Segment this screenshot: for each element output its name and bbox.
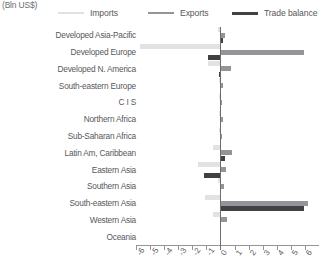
chart-legend: Imports Exports Trade balance [55,6,319,20]
legend-label-exports: Exports [180,8,208,18]
bar-imports [198,162,221,167]
axis-tick-label: 1 [234,248,244,257]
legend-item-exports: Exports [148,6,208,20]
unit-label: (Bln US$) [2,0,37,10]
bar-imports [140,44,220,49]
axis-tick-label: -2 [191,246,202,257]
zero-axis-line [220,27,221,245]
axis-tick-label: 4 [276,248,286,257]
bar-exports [220,201,307,206]
category-label: Developed Europe [70,45,136,59]
bars-area [136,27,319,245]
bar-imports [213,212,221,217]
category-label: South-eastern Asia [69,196,136,210]
bar-exports [220,66,231,71]
legend-swatch-trade-balance [232,12,258,15]
axis-tick-label: -1 [205,246,216,257]
value-axis: -6-5-4-3-2-101234567 [136,245,319,275]
legend-label-trade-balance: Trade balance [264,8,317,18]
category-label: Sub-Saharan Africa [68,129,136,143]
category-label: Oceania [106,230,136,244]
legend-swatch-imports [58,12,84,14]
axis-tick-label: 3 [262,248,272,257]
category-label: Western Asia [90,213,136,227]
legend-item-imports: Imports [58,6,118,20]
category-label: Eastern Asia [92,163,136,177]
category-label: C I S [119,95,136,109]
plot-area: Developed Asia-PacificDeveloped EuropeDe… [0,27,319,245]
bar-imports [205,195,220,200]
category-axis: Developed Asia-PacificDeveloped EuropeDe… [0,27,136,245]
bar-imports [208,61,220,66]
axis-tick-label: 0 [219,248,229,257]
bar-trade-balance [204,173,221,178]
legend-item-trade-balance: Trade balance [232,6,317,20]
axis-tick-label: -6 [135,246,146,257]
axis-tick-label: -3 [177,246,188,257]
category-label: Latin Am, Caribbean [65,146,136,160]
axis-tick-label: -4 [163,246,174,257]
category-label: Developed Asia-Pacific [56,28,136,42]
category-label: Southern Asia [87,179,136,193]
category-label: Developed N. America [57,62,136,76]
bar-exports [220,150,231,155]
bar-trade-balance [208,55,221,60]
bar-exports [220,217,227,222]
trade-bar-chart: (Bln US$) Imports Exports Trade balance … [0,0,319,275]
category-label: South-eastern Europe [59,79,136,93]
axis-tick-label: 5 [290,248,300,257]
legend-swatch-exports [148,12,174,14]
axis-tick-label: -5 [149,246,160,257]
axis-tick-label: 6 [304,248,314,257]
legend-label-imports: Imports [90,8,118,18]
bar-trade-balance [220,206,303,211]
bar-imports [213,145,220,150]
axis-tick-label: 2 [248,248,258,257]
axis-tick-label: 7 [318,248,319,257]
bar-exports [220,50,303,55]
category-label: Northern Africa [84,112,136,126]
